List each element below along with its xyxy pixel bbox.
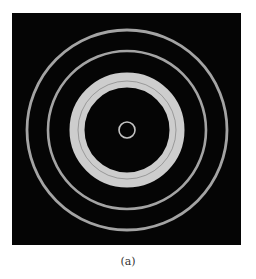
center-ring (119, 122, 135, 138)
figure-caption: (a) (0, 255, 256, 268)
outer-ring (27, 30, 227, 230)
thick-ring-dark-line (78, 81, 176, 179)
rings-svg (12, 13, 241, 245)
diffraction-pattern-image (12, 13, 241, 245)
